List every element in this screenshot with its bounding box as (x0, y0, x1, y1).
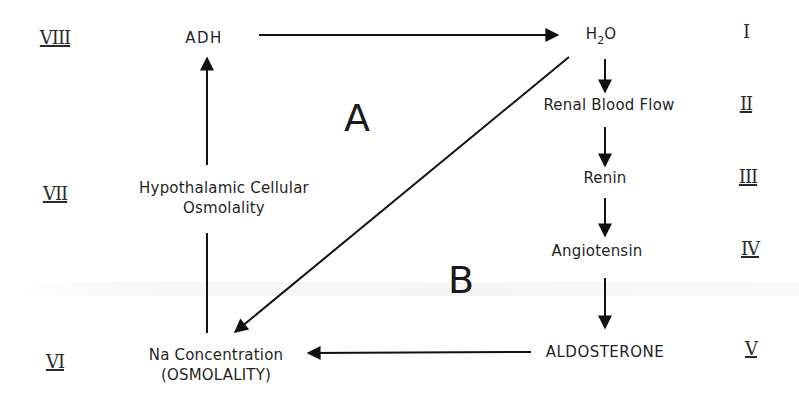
h2o-subscript: 2 (597, 34, 604, 47)
arrow-aldosterone-to-na (308, 352, 531, 353)
node-na-concentration: Na Concentration (OSMOLALITY) (149, 345, 284, 385)
na-line-2: (OSMOLALITY) (149, 365, 284, 385)
hypothalamic-line-1: Hypothalamic Cellular (139, 178, 309, 198)
node-angiotensin: Angiotensin (552, 241, 643, 261)
arrows-layer (0, 0, 799, 407)
node-hypothalamic-cellular-osmolality: Hypothalamic Cellular Osmolality (139, 178, 309, 218)
step-numeral-viii: VIII (40, 28, 70, 48)
step-numeral-iv: IV (741, 239, 759, 259)
step-numeral-vii: VII (43, 184, 67, 204)
hypothalamic-line-2: Osmolality (139, 198, 309, 218)
node-aldosterone: ALDOSTERONE (546, 342, 665, 362)
node-adh: ADH (185, 28, 223, 48)
feedback-diagram: ADH H2O Renal Blood Flow Renin Angiotens… (0, 0, 799, 407)
region-label-b: B (448, 260, 474, 300)
step-numeral-i: I (743, 22, 749, 42)
na-line-1: Na Concentration (149, 345, 284, 365)
step-numeral-ii: II (740, 94, 752, 114)
node-renin: Renin (583, 168, 626, 188)
step-numeral-v: V (745, 339, 757, 359)
h2o-o: O (604, 25, 616, 43)
h2o-h: H (586, 25, 597, 43)
step-numeral-vi: VI (46, 352, 64, 372)
node-renal-blood-flow: Renal Blood Flow (543, 95, 674, 115)
node-h2o: H2O (586, 24, 617, 44)
step-numeral-iii: III (739, 167, 757, 187)
region-label-a: A (344, 98, 370, 138)
